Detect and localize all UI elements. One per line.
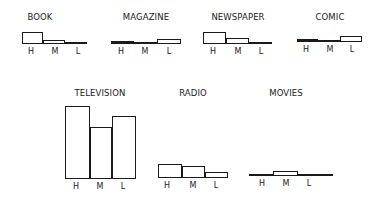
radio-tick-label: M [190, 181, 197, 190]
radio-bar-l [205, 172, 228, 178]
comic-tick-label: L [350, 45, 354, 54]
movies-bar-m [273, 171, 298, 176]
book-tick-label: H [28, 47, 34, 56]
book-tick-label: L [76, 47, 80, 56]
magazine-chart-title: MAGAZINE [123, 12, 169, 22]
television-bar-l [112, 116, 136, 179]
movies-chart-title: MOVIES [269, 88, 303, 98]
radio-tick-label: H [164, 181, 170, 190]
book-tick-label: M [52, 47, 59, 56]
radio-bar-m [182, 166, 205, 178]
magazine-bar-h [111, 41, 134, 44]
television-tick-label: H [73, 182, 79, 191]
magazine-tick-label: M [142, 47, 149, 56]
newspaper-chart-title: NEWSPAPER [211, 12, 264, 22]
magazine-tick-label: L [167, 47, 171, 56]
television-tick-label: M [97, 182, 104, 191]
television-chart-title: TELEVISION [75, 88, 126, 98]
book-chart-title: BOOK [27, 12, 52, 22]
newspaper-tick-label: H [210, 47, 216, 56]
movies-tick-label: L [307, 179, 311, 188]
book-bar-h [22, 32, 43, 44]
book-bar-m [43, 40, 65, 44]
television-tick-label: L [121, 182, 125, 191]
newspaper-tick-label: M [235, 47, 242, 56]
comic-chart-title: COMIC [316, 12, 345, 22]
magazine-tick-label: H [118, 47, 124, 56]
comic-bar-l [340, 36, 362, 42]
comic-bar-h [297, 39, 318, 42]
newspaper-bar-h [203, 32, 226, 44]
radio-chart-title: RADIO [179, 88, 207, 98]
newspaper-bar-m [226, 38, 249, 44]
radio-tick-label: L [214, 181, 218, 190]
television-bar-h [65, 106, 90, 179]
comic-tick-label: H [303, 45, 309, 54]
television-bar-m [90, 127, 112, 179]
newspaper-tick-label: L [259, 47, 263, 56]
magazine-bar-l [157, 39, 181, 44]
movies-tick-label: H [259, 179, 265, 188]
comic-tick-label: M [327, 45, 334, 54]
movies-tick-label: M [283, 179, 290, 188]
radio-bar-h [158, 164, 182, 178]
